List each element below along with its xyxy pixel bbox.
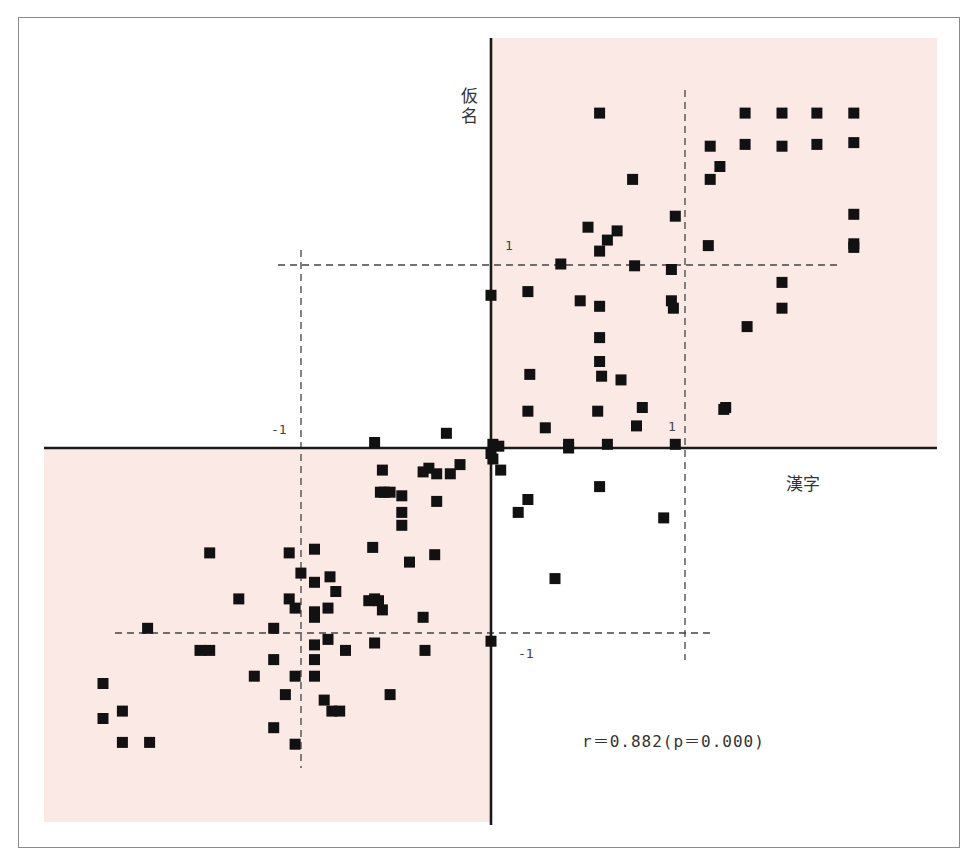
quadrant-fill-lower-left [44, 449, 492, 822]
data-point [418, 612, 429, 623]
tick-label-y-plus1: 1 [505, 238, 513, 253]
data-point [705, 141, 716, 152]
data-point [555, 259, 566, 270]
data-point [431, 496, 442, 507]
data-point [575, 295, 586, 306]
data-point [431, 468, 442, 479]
data-point [369, 437, 380, 448]
data-point [204, 547, 215, 558]
data-point [377, 465, 388, 476]
data-point [486, 636, 497, 647]
data-point [594, 301, 605, 312]
data-point [594, 356, 605, 367]
data-point [280, 689, 291, 700]
data-point [404, 557, 415, 568]
data-point [703, 240, 714, 251]
data-point [204, 645, 215, 656]
data-point [144, 737, 155, 748]
data-point [290, 671, 301, 682]
data-point [295, 568, 306, 579]
data-point [98, 713, 109, 724]
data-point [522, 494, 533, 505]
scatter-plot [0, 0, 969, 857]
data-point [455, 459, 466, 470]
data-point [777, 303, 788, 314]
data-point [385, 487, 396, 498]
data-point [396, 507, 407, 518]
data-point [323, 603, 334, 614]
data-point [848, 137, 859, 148]
tick-label-x-plus1: 1 [668, 419, 676, 434]
data-point [369, 638, 380, 649]
data-point [309, 577, 320, 588]
data-point [594, 108, 605, 119]
data-point [740, 108, 751, 119]
data-point [309, 654, 320, 665]
data-point [658, 512, 669, 523]
data-point [602, 235, 613, 246]
data-point [325, 571, 336, 582]
data-point [777, 141, 788, 152]
data-point [550, 573, 561, 584]
data-point [612, 225, 623, 236]
data-point [629, 260, 640, 271]
data-point [420, 645, 431, 656]
data-point [777, 277, 788, 288]
data-point [524, 369, 535, 380]
data-point [668, 303, 679, 314]
data-point [513, 507, 524, 518]
data-point [848, 209, 859, 220]
data-point [290, 739, 301, 750]
data-point [396, 520, 407, 531]
data-point [594, 246, 605, 257]
data-point [666, 264, 677, 275]
data-point [195, 645, 206, 656]
data-point [268, 623, 279, 634]
data-point [369, 593, 380, 604]
data-point [594, 481, 605, 492]
data-point [309, 639, 320, 650]
data-point [396, 490, 407, 501]
data-point [487, 454, 498, 465]
data-point [340, 645, 351, 656]
data-point [290, 603, 301, 614]
data-point [718, 404, 729, 415]
data-point [334, 706, 345, 717]
data-point [631, 420, 642, 431]
data-point [445, 468, 456, 479]
data-point [602, 439, 613, 450]
data-point [627, 174, 638, 185]
data-point [522, 406, 533, 417]
data-point [742, 321, 753, 332]
data-point [583, 222, 594, 233]
quadrant-fill-upper-right [492, 38, 937, 448]
data-point [594, 332, 605, 343]
data-point [309, 544, 320, 555]
data-point [540, 422, 551, 433]
data-point [98, 678, 109, 689]
data-point [142, 623, 153, 634]
data-point [441, 428, 452, 439]
data-point [117, 706, 128, 717]
data-point [637, 402, 648, 413]
data-point [522, 286, 533, 297]
data-point [848, 108, 859, 119]
data-point [309, 671, 320, 682]
data-point [592, 406, 603, 417]
tick-label-x-minus1: -1 [271, 422, 287, 437]
data-point [848, 242, 859, 253]
data-point [330, 586, 341, 597]
correlation-annotation: r＝0.882(p＝0.000) [582, 728, 765, 752]
data-point [811, 108, 822, 119]
data-point [385, 689, 396, 700]
data-point [777, 108, 788, 119]
data-point [268, 654, 279, 665]
data-point [563, 443, 574, 454]
data-point [309, 612, 320, 623]
data-point [596, 371, 607, 382]
data-point [740, 139, 751, 150]
data-point [268, 722, 279, 733]
data-point [486, 290, 497, 301]
data-point [323, 634, 334, 645]
data-point [429, 549, 440, 560]
